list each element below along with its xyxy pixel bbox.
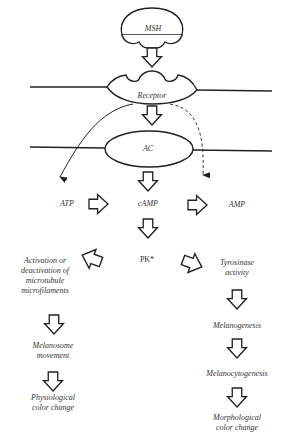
arrow-activation-to-melanosome bbox=[45, 315, 64, 334]
morpho-line-1: Morphological bbox=[206, 413, 268, 423]
arrow-receptor-to-ac bbox=[143, 106, 162, 125]
physio-line-2: color change bbox=[22, 403, 84, 413]
label-morphological: Morphological color change bbox=[206, 413, 268, 433]
label-melanosome: Melanosome movement bbox=[22, 341, 84, 361]
label-camp: cAMP bbox=[130, 199, 166, 209]
arrow-camp-to-amp bbox=[188, 196, 207, 215]
arrow-melanocytogenesis-to-morpho bbox=[228, 388, 247, 407]
label-ac: AC bbox=[133, 144, 163, 154]
activation-line-2: deactivation of bbox=[14, 266, 76, 276]
morpho-line-2: color change bbox=[206, 423, 268, 433]
arrow-tyrosinase-to-melanogenesis bbox=[228, 290, 247, 309]
arrow-melanogenesis-to-melanocytogenesis bbox=[228, 339, 247, 358]
label-receptor: Receptor bbox=[124, 91, 180, 101]
tyrosinase-line-1: Tyrosinase bbox=[208, 258, 266, 268]
arrow-camp-to-pk bbox=[139, 219, 158, 238]
arrow-atp-to-camp bbox=[89, 195, 108, 214]
arrow-melanosome-to-physio bbox=[44, 372, 63, 391]
arrow-pk-to-tyrosinase bbox=[180, 251, 206, 277]
label-melanocytogenesis: Melanocytogenesis bbox=[198, 369, 276, 379]
arrow-ac-to-camp bbox=[139, 172, 158, 191]
label-melanogenesis: Melanogenesis bbox=[205, 321, 269, 331]
activation-line-1: Activation or bbox=[14, 256, 76, 266]
membrane-line-bottom-left bbox=[30, 147, 105, 148]
label-atp: ATP bbox=[54, 199, 80, 209]
label-amp: AMP bbox=[222, 200, 252, 210]
arrow-pk-to-activation bbox=[79, 246, 105, 272]
membrane-line-top-right bbox=[197, 90, 272, 91]
activation-line-4: microfilaments bbox=[14, 286, 76, 296]
melanosome-line-1: Melanosome bbox=[22, 341, 84, 351]
label-physiological: Physiological color change bbox=[22, 393, 84, 413]
tyrosinase-line-2: activity bbox=[208, 268, 266, 278]
arrow-msh-to-receptor bbox=[143, 48, 162, 67]
label-msh: MSH bbox=[138, 24, 168, 34]
melanosome-line-2: movement bbox=[22, 351, 84, 361]
activation-line-3: microtubule bbox=[14, 276, 76, 286]
membrane-line-bottom-right bbox=[193, 150, 272, 151]
label-tyrosinase: Tyrosinase activity bbox=[208, 258, 266, 278]
physio-line-1: Physiological bbox=[22, 393, 84, 403]
label-pk: PK* bbox=[132, 255, 162, 265]
label-activation: Activation or deactivation of microtubul… bbox=[14, 256, 76, 296]
